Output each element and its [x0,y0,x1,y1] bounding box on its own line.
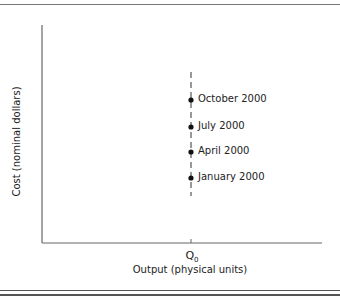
data-point [188,124,193,129]
data-point [188,149,193,154]
data-point [188,97,193,102]
chart-plot [0,0,340,296]
bottom-rule [0,290,340,291]
x-axis-label: Output (physical units) [120,264,260,275]
point-label: April 2000 [198,145,249,156]
point-label: October 2000 [198,93,267,104]
point-label: July 2000 [198,120,245,131]
data-point [188,175,193,180]
x-tick-label: Q0 [180,249,204,264]
y-axis-label: Cost (nominal dollars) [11,82,22,202]
point-label: January 2000 [198,171,265,182]
